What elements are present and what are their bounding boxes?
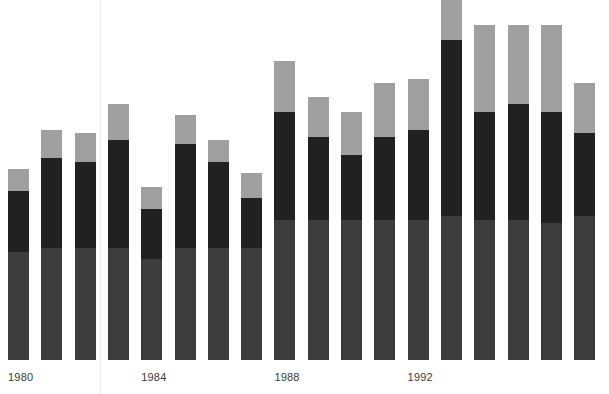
bar-segment-bottom — [374, 220, 395, 360]
bar-segment-bottom — [141, 259, 162, 360]
bar-1982[interactable] — [75, 133, 96, 360]
bar-1987[interactable] — [241, 173, 262, 360]
bar-segment-middle — [8, 191, 29, 252]
bar-segment-top — [41, 130, 62, 159]
bar-segment-top — [75, 133, 96, 162]
bar-segment-top — [108, 104, 129, 140]
bar-segment-bottom — [274, 220, 295, 360]
bar-segment-middle — [441, 40, 462, 216]
bar-segment-top — [341, 112, 362, 155]
bar-1996[interactable] — [541, 25, 562, 360]
bar-segment-middle — [141, 209, 162, 259]
bar-segment-bottom — [108, 248, 129, 360]
bar-segment-middle — [241, 198, 262, 248]
bar-1988[interactable] — [274, 61, 295, 360]
bar-segment-middle — [108, 140, 129, 248]
bar-segment-top — [274, 61, 295, 111]
bar-1995[interactable] — [508, 25, 529, 360]
bar-segment-bottom — [508, 220, 529, 360]
bar-segment-top — [574, 83, 595, 133]
bar-segment-bottom — [75, 248, 96, 360]
bar-1983[interactable] — [108, 104, 129, 360]
plot-area — [0, 0, 609, 360]
bar-segment-bottom — [241, 248, 262, 360]
bar-segment-middle — [508, 104, 529, 219]
bar-segment-top — [374, 83, 395, 137]
bar-1984[interactable] — [141, 187, 162, 360]
x-axis-labels: 1980198419881992 — [0, 360, 609, 394]
bar-segment-bottom — [8, 252, 29, 360]
bar-1997[interactable] — [574, 83, 595, 360]
bar-segment-middle — [374, 137, 395, 220]
bar-segment-top — [408, 79, 429, 129]
stacked-bar-chart: 1980198419881992 — [0, 0, 609, 394]
bar-segment-middle — [341, 155, 362, 220]
bar-1989[interactable] — [308, 97, 329, 360]
bar-segment-bottom — [474, 220, 495, 360]
bar-1980[interactable] — [8, 169, 29, 360]
bar-segment-middle — [274, 112, 295, 220]
bar-segment-bottom — [341, 220, 362, 360]
x-axis-tick-label: 1980 — [8, 371, 33, 383]
bar-segment-bottom — [541, 223, 562, 360]
bar-segment-middle — [75, 162, 96, 248]
bar-segment-middle — [541, 112, 562, 224]
bar-segment-middle — [574, 133, 595, 216]
bar-segment-middle — [408, 130, 429, 220]
bar-segment-middle — [208, 162, 229, 248]
bar-segment-bottom — [441, 216, 462, 360]
bar-1993[interactable] — [441, 0, 462, 360]
bar-segment-top — [175, 115, 196, 144]
bar-segment-top — [541, 25, 562, 111]
bar-1991[interactable] — [374, 83, 395, 360]
bar-segment-bottom — [308, 220, 329, 360]
x-axis-tick-label: 1984 — [141, 371, 166, 383]
bar-segment-bottom — [41, 248, 62, 360]
x-axis-tick-label: 1992 — [408, 371, 433, 383]
bar-segment-top — [8, 169, 29, 191]
bar-segment-middle — [308, 137, 329, 220]
bar-1992[interactable] — [408, 79, 429, 360]
bar-1985[interactable] — [175, 115, 196, 360]
bar-segment-bottom — [574, 216, 595, 360]
bar-segment-top — [508, 25, 529, 104]
bar-segment-top — [141, 187, 162, 209]
bar-segment-middle — [175, 144, 196, 248]
bar-segment-middle — [474, 112, 495, 220]
bar-1994[interactable] — [474, 25, 495, 360]
bar-segment-bottom — [175, 248, 196, 360]
bar-1990[interactable] — [341, 112, 362, 360]
bar-segment-top — [474, 25, 495, 111]
bar-1981[interactable] — [41, 130, 62, 360]
bar-1986[interactable] — [208, 140, 229, 360]
bar-segment-top — [308, 97, 329, 137]
bar-segment-top — [208, 140, 229, 162]
bar-segment-top — [441, 0, 462, 40]
x-axis-tick-label: 1988 — [274, 371, 299, 383]
bar-segment-bottom — [408, 220, 429, 360]
bar-segment-middle — [41, 158, 62, 248]
bar-segment-bottom — [208, 248, 229, 360]
bar-segment-top — [241, 173, 262, 198]
